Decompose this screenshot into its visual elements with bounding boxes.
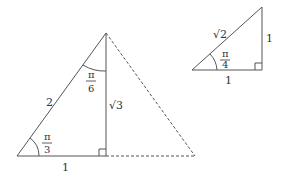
svg-text:π: π (44, 131, 51, 142)
svg-text:6: 6 (88, 83, 94, 94)
hypotenuse-line (17, 33, 106, 156)
base-label: 1 (62, 161, 69, 174)
angle-label-pi-over-4: π 4 (220, 48, 230, 70)
height-label: √3 (109, 99, 123, 112)
angle-arc-bottom (30, 138, 39, 156)
angle-label-pi-over-6: π 6 (86, 69, 96, 94)
angle-label-pi-over-3: π 3 (42, 131, 52, 155)
svg-text:3: 3 (44, 144, 50, 155)
right-angle-marker (99, 149, 106, 156)
dashed-mirror-hypotenuse (106, 33, 195, 156)
triangles-diagram: 2 1 √3 π 3 π 6 √2 1 1 π 4 (0, 0, 288, 178)
hypotenuse-label: 2 (46, 96, 53, 109)
height-label: 1 (266, 32, 273, 45)
hypotenuse-label: √2 (213, 28, 227, 41)
right-angle-marker (255, 63, 262, 70)
svg-text:π: π (88, 69, 95, 80)
svg-text:π: π (222, 48, 229, 59)
base-label: 1 (225, 74, 232, 87)
angle-arc (210, 54, 217, 70)
svg-text:4: 4 (222, 59, 228, 70)
